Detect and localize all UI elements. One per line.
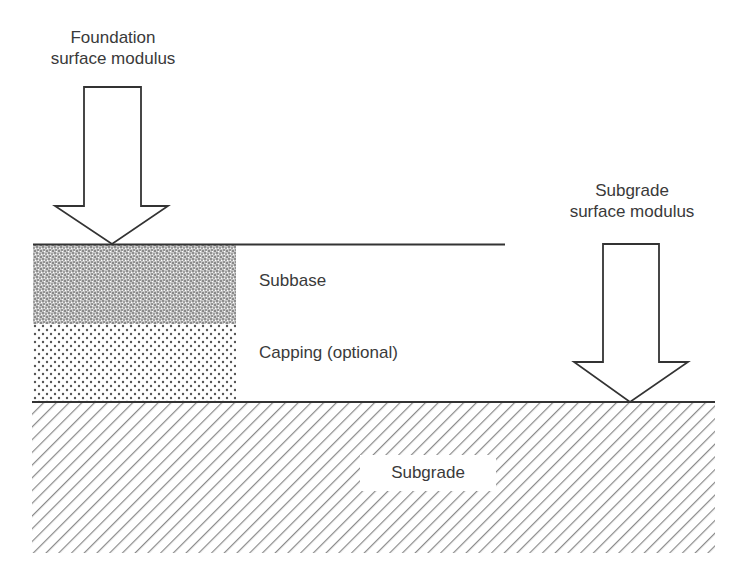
foundation-label-line-2: surface modulus: [51, 48, 176, 69]
foundation-arrow-icon: [55, 87, 168, 244]
subbase-layer: [33, 245, 236, 324]
subgrade-arrow-icon: [574, 244, 688, 402]
subbase-label: Subbase: [259, 270, 326, 291]
subgrade-label-line-1: Subgrade: [570, 180, 695, 201]
foundation-modulus-label: Foundation surface modulus: [51, 27, 176, 69]
capping-label: Capping (optional): [259, 342, 398, 363]
subgrade-label-line-2: surface modulus: [570, 201, 695, 222]
capping-layer: [33, 324, 236, 401]
subgrade-modulus-label: Subgrade surface modulus: [570, 180, 695, 222]
foundation-label-line-1: Foundation: [51, 27, 176, 48]
pavement-foundation-diagram: [0, 0, 742, 579]
subgrade-label: Subgrade: [360, 455, 496, 491]
